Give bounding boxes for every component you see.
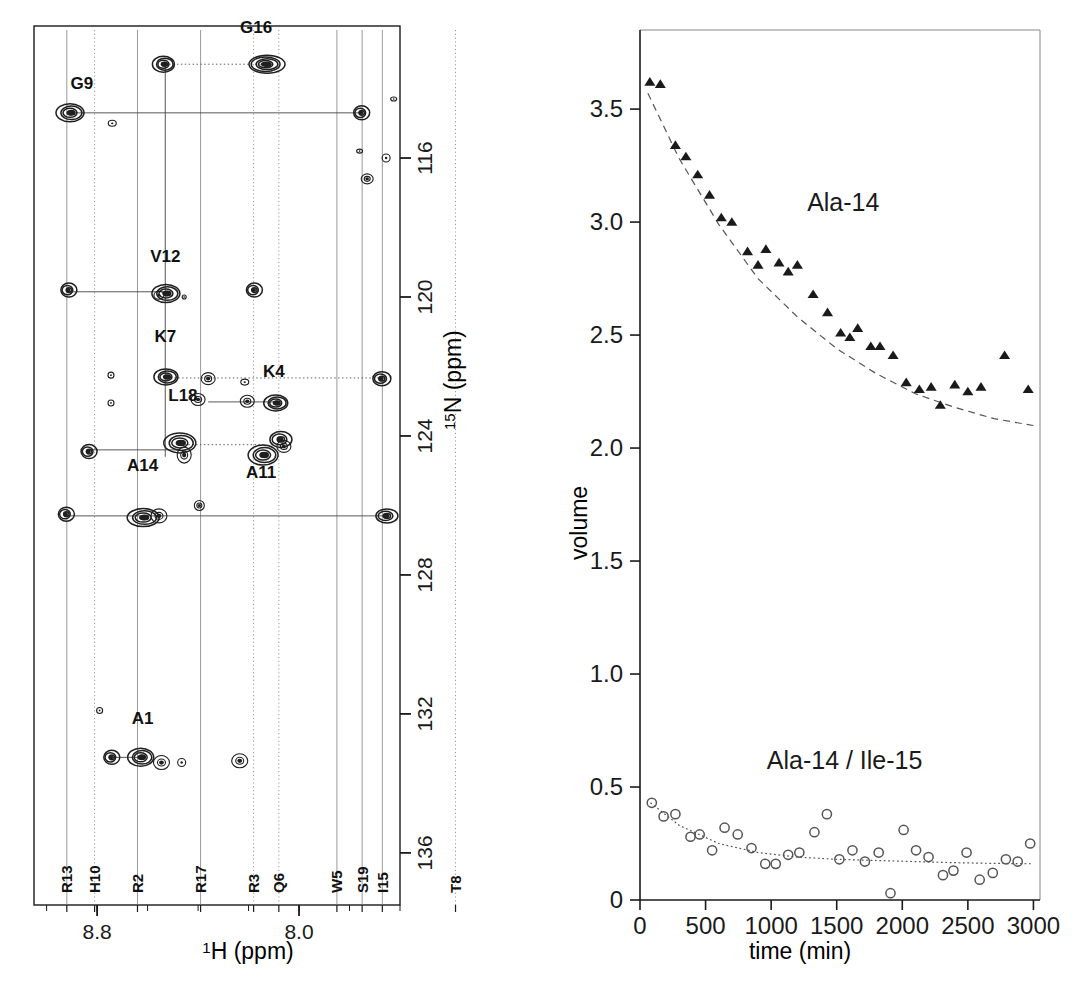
contour-core bbox=[161, 62, 168, 67]
series-annotation-2: Ala-14 / Ile-15 bbox=[767, 746, 923, 774]
nmr-y-axis-title-superscript: 15 bbox=[441, 413, 458, 430]
contour-core bbox=[358, 111, 363, 115]
contour-core bbox=[157, 294, 160, 296]
peak-label: A11 bbox=[246, 463, 276, 482]
contour-core bbox=[365, 177, 369, 180]
residue-tick-label: H10 bbox=[86, 865, 103, 893]
data-point-circle bbox=[810, 828, 819, 837]
kinetics-x-tick-label: 2500 bbox=[941, 912, 994, 939]
kinetics-y-tick-label: 1.5 bbox=[590, 547, 623, 574]
contour-core bbox=[237, 759, 242, 763]
data-point-triangle bbox=[999, 350, 1010, 359]
data-point-triangle bbox=[962, 387, 973, 396]
contour-core bbox=[393, 98, 395, 100]
data-point-triangle bbox=[792, 260, 803, 269]
figure-root: R13H10R2R17R3Q6W5S19I15T8G9G16V12K7K4L18… bbox=[0, 0, 1080, 990]
data-point-circle bbox=[1026, 839, 1035, 848]
contour-core bbox=[385, 157, 387, 159]
data-point-triangle bbox=[949, 380, 960, 389]
contour-core bbox=[159, 760, 164, 764]
peak-label: K4 bbox=[263, 362, 285, 381]
peak-label: G9 bbox=[71, 74, 94, 93]
data-point-circle bbox=[659, 812, 668, 821]
nmr-x-tick-label: 8.8 bbox=[83, 920, 112, 943]
kinetics-x-tick-label: 2000 bbox=[876, 912, 929, 939]
fit-curve-2 bbox=[651, 803, 1034, 864]
data-point-triangle bbox=[742, 247, 753, 256]
contour-core bbox=[383, 514, 390, 518]
series-2-markers bbox=[647, 798, 1035, 898]
nmr-y-tick-label: 136 bbox=[413, 835, 436, 870]
contour-core bbox=[66, 288, 71, 292]
residue-tick-label: T8 bbox=[447, 875, 464, 893]
data-point-triangle bbox=[644, 77, 655, 86]
contour-core bbox=[273, 401, 280, 406]
contour-core bbox=[111, 122, 113, 124]
series-annotation-1: Ala-14 bbox=[807, 188, 879, 216]
data-point-triangle bbox=[975, 382, 986, 391]
data-point-triangle bbox=[808, 289, 819, 298]
kinetics-y-tick-label: 3.5 bbox=[590, 95, 623, 122]
nmr-y-tick-label: 128 bbox=[413, 557, 436, 592]
series-1-markers bbox=[644, 77, 1033, 409]
kinetics-x-tick-label: 1500 bbox=[810, 912, 863, 939]
contour-core bbox=[157, 514, 162, 518]
contour-core bbox=[182, 453, 186, 458]
kinetics-y-tick-label: 1.0 bbox=[590, 660, 623, 687]
peak-label: K7 bbox=[154, 327, 176, 346]
data-point-triangle bbox=[760, 244, 771, 253]
contour-core bbox=[110, 374, 112, 376]
contour-core bbox=[206, 377, 210, 381]
data-point-circle bbox=[975, 875, 984, 884]
data-point-circle bbox=[1001, 855, 1010, 864]
data-point-circle bbox=[938, 871, 947, 880]
contour-core bbox=[245, 399, 249, 403]
contour-core bbox=[139, 515, 149, 520]
data-point-triangle bbox=[852, 323, 863, 332]
kinetics-x-tick-label: 500 bbox=[686, 912, 726, 939]
data-point-circle bbox=[647, 798, 656, 807]
contour-core bbox=[63, 512, 68, 516]
data-point-circle bbox=[924, 852, 933, 861]
peak-label: G16 bbox=[240, 18, 272, 37]
data-point-triangle bbox=[716, 213, 727, 222]
residue-tick-label: R17 bbox=[192, 865, 209, 893]
data-point-circle bbox=[1013, 857, 1022, 866]
data-point-triangle bbox=[726, 217, 737, 226]
residue-tick-label: R2 bbox=[129, 874, 146, 893]
nmr-y-axis-title: 15N (ppm) bbox=[440, 330, 467, 430]
nmr-x-axis-title: 1H (ppm) bbox=[148, 938, 348, 965]
contour-core bbox=[176, 440, 186, 446]
data-point-circle bbox=[747, 843, 756, 852]
data-point-triangle bbox=[783, 267, 794, 276]
contour-core bbox=[259, 452, 268, 458]
nmr-y-tick-label: 116 bbox=[413, 141, 436, 174]
data-point-triangle bbox=[914, 384, 925, 393]
data-point-circle bbox=[886, 889, 895, 898]
data-point-triangle bbox=[844, 332, 855, 341]
residue-tick-label: W5 bbox=[328, 871, 345, 894]
contour-core bbox=[163, 375, 170, 380]
data-point-circle bbox=[795, 848, 804, 857]
peak-label: V12 bbox=[150, 247, 180, 266]
nmr-plot-frame bbox=[34, 26, 400, 905]
nmr-y-axis-title-text: N (ppm) bbox=[440, 330, 466, 413]
contour-core bbox=[86, 450, 91, 454]
fit-curve-1 bbox=[648, 93, 1034, 425]
data-point-circle bbox=[708, 846, 717, 855]
kinetics-y-tick-label: 0.5 bbox=[590, 773, 623, 800]
data-point-triangle bbox=[835, 328, 846, 337]
data-point-triangle bbox=[1023, 384, 1034, 393]
data-point-circle bbox=[949, 866, 958, 875]
nmr-spectrum-panel: R13H10R2R17R3Q6W5S19I15T8G9G16V12K7K4L18… bbox=[0, 0, 540, 990]
data-point-circle bbox=[720, 823, 729, 832]
data-point-triangle bbox=[753, 260, 764, 269]
data-point-triangle bbox=[692, 170, 703, 179]
contour-core bbox=[198, 504, 201, 507]
data-point-triangle bbox=[874, 341, 885, 350]
kinetics-y-tick-label: 0 bbox=[610, 886, 623, 913]
residue-tick-label: S19 bbox=[354, 866, 371, 893]
kinetics-plot-panel: 00.51.01.52.02.53.03.5050010001500200025… bbox=[540, 0, 1080, 990]
data-point-circle bbox=[988, 868, 997, 877]
data-point-circle bbox=[860, 857, 869, 866]
